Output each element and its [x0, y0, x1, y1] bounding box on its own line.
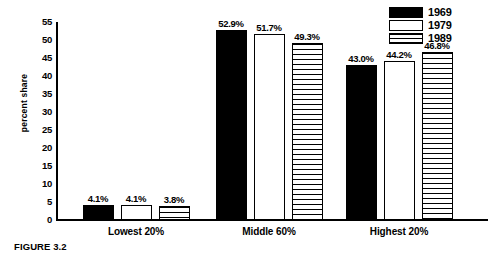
legend: 196919791989: [389, 6, 485, 45]
legend-item-1969[interactable]: 1969: [389, 6, 485, 18]
bar-1969-lowest-20-[interactable]: 4.1%: [83, 14, 114, 220]
bar-rect-1979[interactable]: [384, 61, 415, 220]
y-axis-tick-25: 25: [26, 125, 52, 135]
bar-1969-middle-60-[interactable]: 52.9%: [216, 14, 247, 220]
bar-value-label: 44.2%: [386, 49, 411, 60]
x-axis-category-label: Middle 60%: [213, 226, 325, 237]
bar-rect-1989[interactable]: [292, 43, 323, 220]
y-axis-tick-15: 15: [26, 161, 52, 171]
legend-swatch-icon-1979: [389, 20, 423, 31]
y-axis-tick-45: 45: [26, 53, 52, 63]
bar-value-label: 4.1%: [88, 193, 108, 204]
bar-group-bars: 4.1%4.1%3.8%: [80, 14, 192, 220]
y-axis-tick-20: 20: [26, 143, 52, 153]
bar-value-label: 51.7%: [256, 22, 281, 33]
legend-item-1979[interactable]: 1979: [389, 19, 485, 31]
y-axis-tick-5: 5: [26, 197, 52, 207]
legend-label: 1989: [428, 33, 452, 44]
bar-rect-1969[interactable]: [83, 205, 114, 220]
figure-page: { "figure": { "caption": "FIGURE 3.2" },…: [0, 0, 494, 259]
x-axis-category-label: Lowest 20%: [80, 226, 192, 237]
legend-label: 1979: [428, 20, 452, 31]
bar-group-1: 4.1%4.1%3.8%Lowest 20%: [80, 14, 192, 220]
bar-group-bars: 52.9%51.7%49.3%: [213, 14, 325, 220]
bar-1989-middle-60-[interactable]: 49.3%: [292, 14, 323, 220]
bar-1989-lowest-20-[interactable]: 3.8%: [159, 14, 190, 220]
legend-item-1989[interactable]: 1989: [389, 32, 485, 44]
y-axis-tick-labels: 0510152025303540455055: [26, 14, 52, 226]
bar-rect-1979[interactable]: [121, 205, 152, 220]
figure-caption: FIGURE 3.2: [14, 241, 67, 252]
y-axis-tick-30: 30: [26, 107, 52, 117]
bar-1969-highest-20-[interactable]: 43.0%: [346, 14, 377, 220]
bar-value-label: 49.3%: [294, 31, 319, 42]
bar-rect-1969[interactable]: [216, 30, 247, 220]
bar-value-label: 4.1%: [126, 193, 146, 204]
y-axis-tick-40: 40: [26, 71, 52, 81]
x-axis-category-label: Highest 20%: [343, 226, 455, 237]
bar-rect-1979[interactable]: [254, 34, 285, 220]
y-axis-tick-35: 35: [26, 89, 52, 99]
y-axis-tick-50: 50: [26, 35, 52, 45]
legend-swatch-icon-1969: [389, 7, 423, 18]
bar-rect-1989[interactable]: [422, 52, 453, 220]
bar-value-label: 52.9%: [218, 18, 243, 29]
y-axis-tick-55: 55: [26, 17, 52, 27]
bar-group-2: 52.9%51.7%49.3%Middle 60%: [213, 14, 325, 220]
bar-value-label: 3.8%: [164, 194, 184, 205]
legend-swatch-icon-1989: [389, 33, 423, 44]
y-axis-tick-0: 0: [26, 215, 52, 225]
bar-value-label: 43.0%: [348, 53, 373, 64]
bar-rect-1989[interactable]: [159, 206, 190, 220]
bar-1979-middle-60-[interactable]: 51.7%: [254, 14, 285, 220]
bar-rect-1969[interactable]: [346, 65, 377, 220]
bar-1979-lowest-20-[interactable]: 4.1%: [121, 14, 152, 220]
y-axis-tick-10: 10: [26, 179, 52, 189]
legend-label: 1969: [428, 7, 452, 18]
